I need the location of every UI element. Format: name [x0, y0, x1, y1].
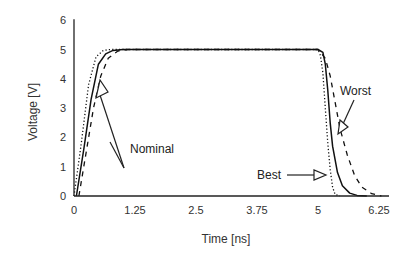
x-tick-label: 5 — [315, 204, 321, 216]
x-tick-label: 1.25 — [124, 204, 145, 216]
x-tick-label: 6.25 — [368, 204, 389, 216]
y-tick-label: 3 — [60, 102, 66, 114]
annotation-label-nominal: Nominal — [130, 142, 174, 156]
voltage-time-chart: 012345601.252.53.7556.25 Voltage [V] Tim… — [0, 0, 412, 256]
series-worst — [79, 50, 382, 197]
arrowhead-icon — [96, 80, 108, 98]
x-tick-label: 0 — [71, 204, 77, 216]
x-tick-label: 2.5 — [188, 204, 203, 216]
annotation-label-worst: Worst — [340, 84, 372, 98]
y-tick-label: 4 — [60, 73, 66, 85]
annotation-label-best: Best — [257, 168, 282, 182]
annotation-worst: Worst — [338, 84, 372, 134]
y-tick-label: 0 — [60, 190, 66, 202]
series-best — [74, 50, 340, 197]
y-tick-label: 1 — [60, 161, 66, 173]
arrowhead-icon — [338, 120, 348, 134]
x-tick-label: 3.75 — [246, 204, 267, 216]
y-tick-label: 6 — [60, 14, 66, 26]
plot-area — [74, 50, 381, 197]
arrowhead-icon — [314, 170, 326, 180]
annotation-nominal: Nominal — [96, 80, 174, 168]
axes: 012345601.252.53.7556.25 — [60, 14, 390, 216]
y-tick-label: 5 — [60, 44, 66, 56]
y-axis-label: Voltage [V] — [26, 83, 40, 141]
y-tick-label: 2 — [60, 131, 66, 143]
annotation-best: Best — [257, 168, 326, 182]
x-axis-label: Time [ns] — [202, 232, 251, 246]
